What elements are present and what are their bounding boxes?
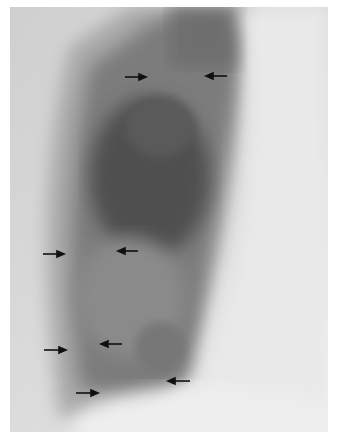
arrow-right-icon [43, 251, 64, 257]
arrow-right-icon [44, 347, 66, 353]
annotation-arrows [0, 0, 340, 440]
arrow-left-icon [118, 248, 138, 254]
arrow-right-icon [125, 74, 146, 80]
arrow-right-icon [76, 390, 98, 396]
arrow-left-icon [101, 341, 122, 347]
arrow-left-icon [168, 378, 190, 384]
arrow-left-icon [206, 73, 227, 79]
